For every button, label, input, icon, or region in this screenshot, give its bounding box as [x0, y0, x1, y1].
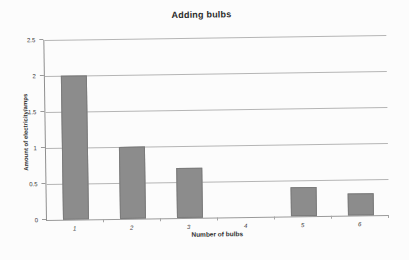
gridline — [45, 71, 387, 77]
x-tick-mark — [388, 215, 389, 218]
gridline — [46, 143, 388, 149]
x-tick-label: 1 — [65, 225, 85, 231]
x-tick-mark — [217, 217, 218, 220]
x-tick-label: 5 — [293, 222, 313, 228]
plot-area — [43, 35, 389, 221]
x-tick-label: 3 — [179, 224, 199, 230]
y-tick-label: 0.5 — [7, 181, 37, 187]
x-tick-mark — [331, 216, 332, 219]
bar — [118, 147, 145, 219]
gridline — [44, 35, 386, 41]
y-tick-label: 2 — [6, 73, 36, 79]
y-tick-label: 1.5 — [6, 109, 36, 115]
y-axis-tick-labels: 00.511.522.5 — [0, 40, 46, 221]
bar-chart: Adding bulbs Amount of electricity/amps … — [0, 0, 409, 260]
bar — [347, 194, 373, 216]
bar — [290, 187, 316, 216]
x-tick-label: 4 — [236, 223, 256, 229]
chart-title: Adding bulbs — [0, 7, 406, 23]
gridline — [46, 179, 388, 185]
x-tick-label: 6 — [350, 221, 370, 227]
x-tick-mark — [274, 217, 275, 220]
x-tick-label: 2 — [122, 225, 142, 231]
y-tick-label: 2.5 — [5, 37, 35, 43]
x-tick-mark — [103, 219, 104, 222]
y-tick-label: 1 — [7, 145, 37, 151]
scanned-chart-page: Adding bulbs Amount of electricity/amps … — [0, 0, 409, 260]
bar — [176, 167, 203, 218]
bar — [60, 75, 88, 219]
x-tick-mark — [160, 218, 161, 221]
y-tick-label: 0 — [8, 217, 38, 223]
gridline — [45, 107, 387, 113]
